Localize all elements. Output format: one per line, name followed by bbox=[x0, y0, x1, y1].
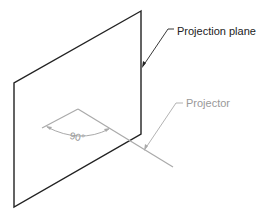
angle-reference-line bbox=[42, 109, 78, 128]
projection-plane-leader bbox=[143, 29, 174, 66]
projector-label: Projector bbox=[186, 98, 230, 109]
projector-line bbox=[78, 109, 173, 167]
projection-plane-label: Projection plane bbox=[177, 26, 256, 37]
projector-leader bbox=[145, 103, 183, 149]
